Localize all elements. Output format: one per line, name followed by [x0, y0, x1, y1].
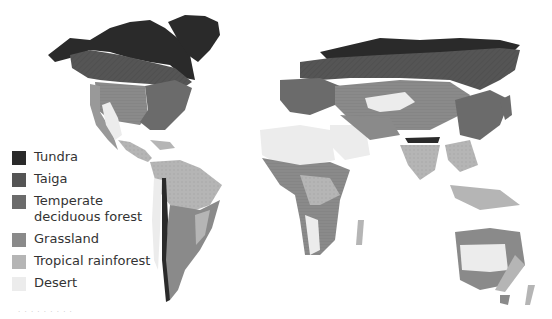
australia [455, 228, 535, 305]
africa-desert [260, 125, 335, 165]
temperate-swatch-icon [12, 195, 26, 209]
legend-item-desert: Desert [12, 275, 154, 291]
north-america [48, 15, 220, 162]
himalaya [405, 137, 440, 143]
madagascar [356, 220, 364, 245]
se-asia [445, 140, 478, 172]
legend-item-rainforest: Tropical rainforest [12, 253, 154, 269]
caption: · · · · · · · · · [18, 308, 73, 316]
grassland-swatch-icon [12, 233, 26, 247]
legend-item-temperate: Temperate deciduous forest [12, 193, 154, 225]
legend-label: Tropical rainforest [34, 253, 150, 269]
desert-swatch-icon [12, 277, 26, 291]
na-temperate [140, 80, 192, 130]
africa-grassland [262, 158, 350, 255]
legend-item-tundra: Tundra [12, 149, 154, 165]
tundra-swatch-icon [12, 151, 26, 165]
rainforest-swatch-icon [12, 255, 26, 269]
legend-label: Tundra [34, 149, 78, 165]
legend-label: Temperate deciduous forest [34, 193, 154, 225]
indonesia [450, 185, 520, 210]
taiga-swatch-icon [12, 173, 26, 187]
legend-label: Desert [34, 275, 77, 291]
legend-item-grassland: Grassland [12, 231, 154, 247]
india-rainforest [400, 145, 440, 180]
legend-label: Taiga [34, 171, 68, 187]
legend-item-taiga: Taiga [12, 171, 154, 187]
sa-grassland [165, 200, 220, 300]
legend-label: Grassland [34, 231, 99, 247]
europe-temperate [280, 78, 340, 115]
australia-desert [460, 244, 508, 272]
tasmania [500, 295, 510, 305]
map-legend: Tundra Taiga Temperate deciduous forest … [12, 149, 154, 297]
south-america [150, 160, 222, 302]
new-zealand [525, 285, 535, 305]
